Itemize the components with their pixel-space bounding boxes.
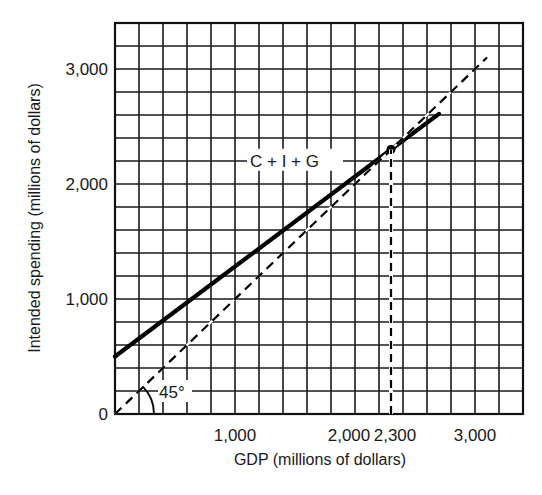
y-axis-ticks: 01,0002,0003,000 [65, 60, 108, 424]
x-axis-title: GDP (millions of dollars) [234, 451, 406, 468]
y-tick-label: 3,000 [65, 60, 108, 79]
y-tick-label: 2,000 [65, 175, 108, 194]
x-tick-label: 3,000 [454, 426, 497, 445]
x-tick-label: 2,300 [374, 426, 417, 445]
series-layer [115, 58, 487, 415]
angle-label: 45° [159, 383, 185, 402]
aggregate-expenditure-chart: 45°C + I + G 1,0002,0002,3003,000 01,000… [0, 0, 542, 495]
x-tick-label: 1,000 [214, 426, 257, 445]
annotation-layer: 45°C + I + G [143, 145, 396, 414]
x-tick-label: 2,000 [328, 426, 371, 445]
forty-five-degree-line [115, 58, 487, 415]
y-axis-title: Intended spending (millions of dollars) [26, 83, 43, 352]
y-tick-label: 0 [99, 405, 108, 424]
y-tick-label: 1,000 [65, 290, 108, 309]
cig-series-label: C + I + G [250, 152, 319, 171]
x-axis-ticks: 1,0002,0002,3003,000 [214, 426, 497, 445]
